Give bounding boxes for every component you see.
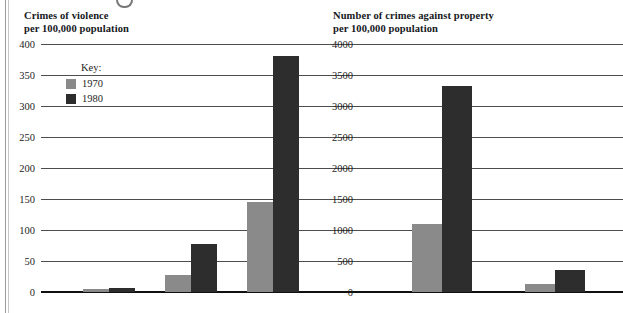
y-axis-tick-label: 200 (3, 163, 35, 174)
gridline (359, 230, 623, 231)
y-axis-tick-label: 1500 (314, 194, 353, 205)
plot-area-property: 05001000150020002500300035004000TheftFra… (359, 44, 623, 292)
legend-swatch-1980-icon (66, 94, 76, 104)
gridline (359, 44, 623, 45)
chart-title-property: Number of crimes against property per 10… (333, 10, 494, 35)
y-axis-tick-label: 50 (3, 256, 35, 267)
y-axis-tick-label: 3000 (314, 101, 353, 112)
chart-title-violence: Crimes of violence per 100,000 populatio… (24, 10, 129, 35)
gridline (359, 137, 623, 138)
chart-crimes-against-property: Number of crimes against property per 10… (311, 0, 623, 313)
y-axis-tick-label: 4000 (314, 39, 353, 50)
bar-assault-1980 (273, 56, 299, 292)
y-axis-tick-label: 0 (3, 287, 35, 298)
y-axis-tick-label: 2000 (314, 163, 353, 174)
chart-title-property-line1: Number of crimes against property (333, 10, 494, 23)
bar-robbery-1980 (191, 244, 217, 292)
y-axis-tick-label: 400 (3, 39, 35, 50)
bar-fraud-1980 (555, 270, 585, 292)
y-axis-tick-label: 500 (314, 256, 353, 267)
bar-fraud-1970 (525, 284, 555, 292)
y-axis-tick-label: 3500 (314, 70, 353, 81)
bar-murder-1970 (83, 289, 109, 292)
bar-murder-1980 (109, 288, 135, 292)
y-axis-tick-label: 1000 (314, 225, 353, 236)
legend-label-violence-1980: 1980 (82, 93, 103, 105)
gridline (359, 199, 623, 200)
chart-title-property-line2: per 100,000 population (333, 23, 494, 36)
gridline (359, 168, 623, 169)
legend-label-violence-1970: 1970 (82, 78, 103, 90)
y-axis-tick-label: 150 (3, 194, 35, 205)
y-axis-tick-label: 350 (3, 70, 35, 81)
y-axis-tick-label: 0 (314, 287, 353, 298)
chart-title-violence-line2: per 100,000 population (24, 23, 129, 36)
legend-title-violence: Key: (81, 62, 103, 74)
bar-assault-1970 (247, 202, 273, 292)
bar-theft-1970 (412, 224, 442, 292)
gridline (359, 106, 623, 107)
bar-robbery-1970 (165, 275, 191, 292)
legend-row-violence-1970: 1970 (66, 76, 103, 91)
y-axis-tick-label: 250 (3, 132, 35, 143)
gridline (359, 75, 623, 76)
bar-theft-1980 (442, 86, 472, 292)
legend-row-violence-1980: 1980 (66, 91, 103, 106)
chart-title-violence-line1: Crimes of violence (24, 10, 129, 23)
legend-violence: Key: 1970 1980 (66, 62, 103, 106)
figure-page: Crimes of violence per 100,000 populatio… (0, 0, 623, 313)
gridline (359, 261, 623, 262)
y-axis-tick-label: 2500 (314, 132, 353, 143)
y-axis-tick-label: 100 (3, 225, 35, 236)
y-axis-tick-label: 300 (3, 101, 35, 112)
chart-crimes-of-violence: Crimes of violence per 100,000 populatio… (0, 0, 311, 313)
legend-swatch-1970-icon (66, 79, 76, 89)
